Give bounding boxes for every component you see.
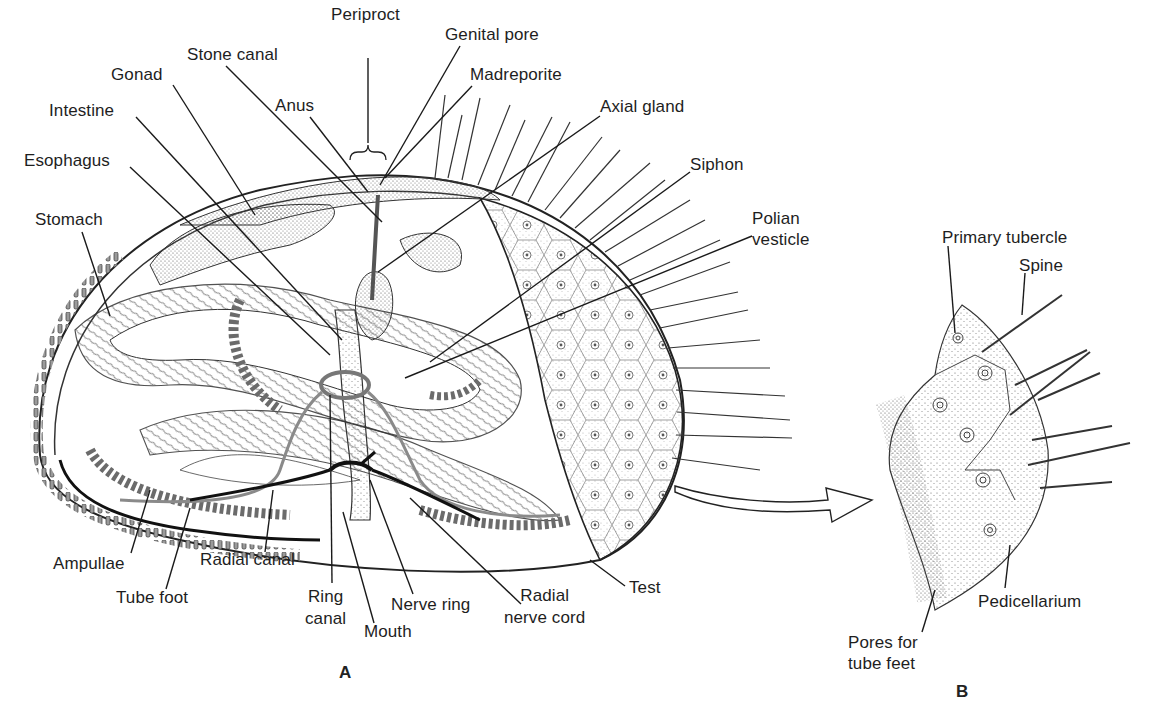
test-fragment-detail (889, 295, 1130, 610)
label-siphon: Siphon (690, 155, 744, 174)
label-radial-canal: Radial canal (200, 550, 295, 569)
label-ring-canal: Ring canal (305, 586, 346, 630)
label-ampullae: Ampullae (53, 554, 125, 573)
label-nerve-ring: Nerve ring (391, 595, 470, 614)
label-pedicellarium: Pedicellarium (978, 592, 1081, 611)
label-stomach: Stomach (35, 210, 103, 229)
label-madreporite: Madreporite (470, 65, 562, 84)
label-ring-canal-line2: canal (305, 608, 346, 630)
label-polian-vesicle-line2: vesticle (752, 229, 810, 250)
label-intestine: Intestine (49, 101, 114, 120)
label-radial-nerve-cord-line2: nerve cord (504, 607, 585, 629)
label-ring-canal-line1: Ring (305, 586, 346, 608)
label-spine: Spine (1019, 256, 1063, 275)
label-esophagus: Esophagus (24, 151, 110, 170)
label-radial-nerve-cord: Radial nerve cord (504, 585, 585, 629)
label-test: Test (629, 578, 661, 597)
label-tube-foot: Tube foot (116, 588, 188, 607)
label-pores-line1: Pores for (848, 632, 918, 653)
label-pores-for-tube-feet: Pores for tube feet (848, 632, 918, 674)
label-stone-canal: Stone canal (187, 45, 278, 64)
periproct-brace (350, 145, 386, 160)
panel-letter-a: A (339, 663, 351, 683)
label-genital-pore: Genital pore (445, 25, 539, 44)
label-periproct: Periproct (331, 5, 400, 24)
label-radial-nerve-cord-line1: Radial (504, 585, 585, 607)
arrow-to-detail-b (675, 486, 872, 522)
label-mouth: Mouth (364, 622, 412, 641)
label-polian-vesicle: Polian vesticle (752, 208, 810, 250)
urchin-body-cutaway (37, 95, 792, 572)
panel-letter-b: B (956, 682, 968, 702)
label-primary-tubercle: Primary tubercle (942, 228, 1067, 247)
label-axial-gland: Axial gland (600, 97, 684, 116)
label-polian-vesicle-line1: Polian (752, 208, 810, 229)
label-pores-line2: tube feet (848, 653, 918, 674)
label-gonad: Gonad (111, 65, 163, 84)
label-anus: Anus (275, 96, 314, 115)
